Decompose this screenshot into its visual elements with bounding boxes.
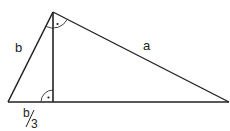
side-b <box>8 12 53 102</box>
right-angle-dot-top <box>56 23 58 25</box>
label-b: b <box>15 40 22 55</box>
right-angle-arc-foot <box>41 90 53 102</box>
label-fraction-denominator: 3 <box>31 117 38 131</box>
label-a: a <box>143 38 151 53</box>
label-fraction-numerator: b <box>23 106 30 120</box>
triangle-diagram: b a b 3 <box>0 0 230 131</box>
side-a <box>53 12 229 102</box>
right-angle-dot-foot <box>47 96 49 98</box>
